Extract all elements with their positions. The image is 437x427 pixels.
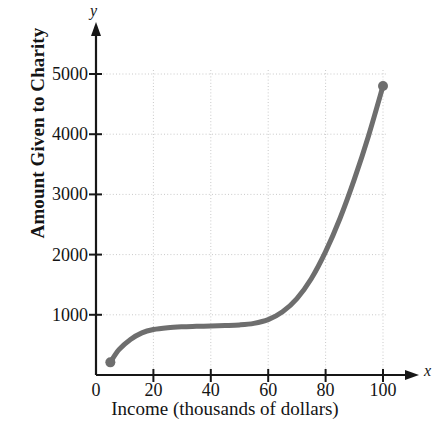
x-axis-tick-label: 60 <box>259 381 277 399</box>
x-axis-tick-label: 80 <box>317 381 335 399</box>
x-axis-tick-label: 40 <box>202 381 220 399</box>
x-axis-tick-label: 0 <box>92 381 101 399</box>
x-axis-tick-label: 100 <box>370 381 397 399</box>
charity-income-chart: Amount Given to Charity Income (thousand… <box>0 0 437 427</box>
x-axis-tick-label: 20 <box>144 381 162 399</box>
x-axis-tick-labels: 020406080100 <box>0 0 437 427</box>
